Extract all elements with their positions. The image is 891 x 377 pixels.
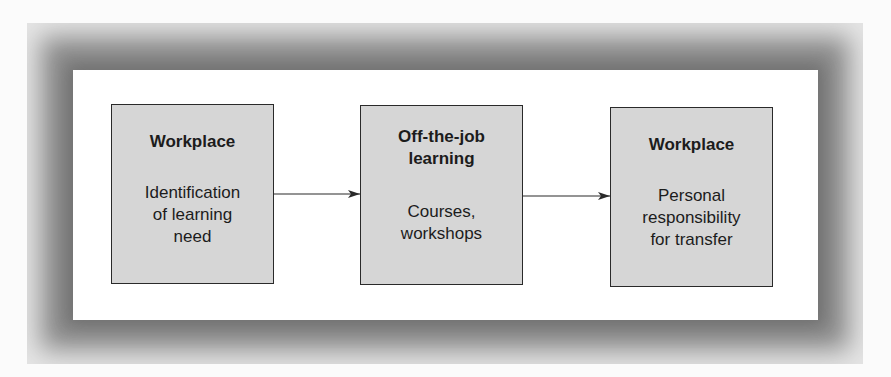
box-title: Workplace — [112, 131, 273, 153]
box-description: Identificationof learningneed — [112, 182, 273, 248]
flow-box-workplace-start: Workplace Identificationof learningneed — [111, 104, 274, 284]
flow-box-off-the-job: Off-the-joblearning Courses,workshops — [360, 105, 523, 285]
flow-box-workplace-end: Workplace Personalresponsibilityfor tran… — [610, 107, 773, 287]
box-description: Personalresponsibilityfor transfer — [611, 185, 772, 251]
box-title: Workplace — [611, 134, 772, 156]
box-description: Courses,workshops — [361, 201, 522, 245]
box-title: Off-the-joblearning — [361, 126, 522, 170]
